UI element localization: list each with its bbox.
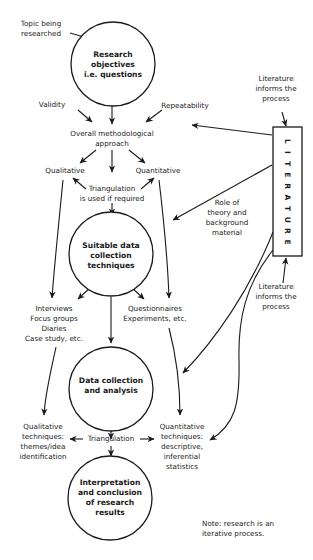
qual-techniques-line: themes/idea [21,442,66,451]
qual-methods-line: Focus groups [30,314,78,323]
validity-line: Validity [39,100,66,109]
lit-informs-bottom-line: process [262,302,290,311]
arrow-literature-to-analysis-area [183,232,273,373]
arrow-approach-to-qualitative [80,150,96,163]
objectives-line: i.e. questions [84,70,143,79]
lit-informs-top-line: Literature [258,74,294,83]
approach-label: Overall methodologicalapproach [70,129,153,148]
role-theory-label: Role oftheory andbackgroundmaterial [206,198,249,237]
note-line: iterative process. [202,529,264,538]
suitable-line: collection [90,251,131,260]
arrow-triangulation-to-quantitative [141,178,154,189]
quant-techniques-line: Quantitative [160,422,205,431]
topic-label: Topic beingresearched [20,19,61,38]
qual-methods-line: Interviews [35,304,72,313]
arrow-literature-to-quant-techniques [210,250,273,440]
literature-letter: R [283,228,292,234]
approach-line: Overall methodological [70,129,153,138]
analysis-line: and analysis [84,386,138,395]
triangulation-2-line: Triangulation [87,434,135,443]
lit-informs-bottom-line: informs the [255,292,297,301]
topic-line: Topic being [20,19,61,28]
research-methodology-diagram: LITERATURE Topic beingresearchedResearch… [0,0,313,560]
interpretation-line: Interpretation [80,478,141,487]
quantitative-label: Quantitative [136,166,181,175]
interpretation-line: of research [86,498,135,507]
validity-label: Validity [39,100,66,109]
lit-informs-bottom-line: Literature [258,282,294,291]
qual-techniques-line: Qualitative [23,422,63,431]
lit-informs-top-line: process [262,94,290,103]
qual-techniques-label: Qualitativetechniques:themes/ideaidentif… [19,422,66,461]
literature-letter: I [283,151,292,154]
qual-methods-line: Case study, etc. [25,334,83,343]
suitable-label: Suitable datacollectiontechniques [82,241,139,270]
arrow-qual-methods-to-qual-techniques [44,347,56,415]
arrow-qualitative-to-qual-methods [52,180,63,298]
lit-informs-top-line: informs the [255,84,297,93]
objectives-line: Research [93,50,132,59]
arrow-validity-to-approach [78,110,92,122]
qual-methods-label: InterviewsFocus groupsDiariesCase study,… [25,304,83,343]
triangulation-1-label: Triangulationis used if required [80,184,145,203]
interpretation-line: results [95,508,125,517]
arrow-lit-informs-top [282,112,286,126]
objectives-line: objectives [91,60,135,69]
role-theory-line: background [206,218,249,227]
note-line: Note: research is an [202,519,274,528]
literature-letter: A [283,194,292,200]
arrow-quantitative-to-quant-methods [159,180,169,298]
arrow-lit-informs-bottom [283,258,286,283]
quant-techniques-line: techniques: [161,432,203,441]
analysis-label: Data collectionand analysis [79,376,143,395]
suitable-line: Suitable data [82,241,139,250]
arrow-repeatability-to-approach [146,110,162,122]
arrow-triangulation-to-qualitative [73,178,86,189]
quant-methods-label: QuestionnairesExperiments, etc. [123,304,186,323]
literature-letter: E [283,240,292,245]
literature-letter: T [283,161,292,167]
qual-techniques-line: techniques: [22,432,64,441]
arrow-literature-to-approach [192,125,272,135]
interpretation-line: and conclusion [78,488,142,497]
qualitative-line: Qualitative [45,166,85,175]
arrow-quant-methods-to-quant-techniques [169,328,180,415]
role-theory-line: theory and [207,208,246,217]
role-theory-line: Role of [215,198,240,207]
quant-techniques-line: inferential [164,452,201,461]
triangulation-1-line: Triangulation [88,184,136,193]
quantitative-line: Quantitative [136,166,181,175]
literature-letter: E [283,172,292,177]
literature-letter: R [283,183,292,189]
literature-letter: T [283,206,292,212]
literature-letter: L [283,139,292,144]
triangulation-2-label: Triangulation [87,434,135,443]
text-layer: Topic beingresearchedResearchobjectivesi… [19,19,297,538]
quant-methods-line: Questionnaires [128,304,182,313]
lit-informs-top-label: Literatureinforms theprocess [255,74,297,103]
analysis-line: Data collection [79,376,143,385]
qual-techniques-line: identification [19,452,66,461]
topic-line: researched [21,29,61,38]
qual-methods-line: Diaries [41,324,66,333]
approach-line: approach [95,139,129,148]
quant-techniques-label: Quantitativetechniques:descriptive,infer… [160,422,205,471]
repeatability-label: Repeatability [161,101,209,110]
qualitative-label: Qualitative [45,166,85,175]
repeatability-line: Repeatability [161,101,209,110]
literature-letter: U [283,217,292,223]
lit-informs-bottom-label: Literatureinforms theprocess [255,282,297,311]
role-theory-line: material [212,228,242,237]
quant-methods-line: Experiments, etc. [123,314,186,323]
suitable-line: techniques [87,261,135,270]
quant-techniques-line: descriptive, [161,442,203,451]
arrow-approach-to-quantitative [129,150,145,163]
literature-box [273,127,302,256]
triangulation-1-line: is used if required [80,194,145,203]
quant-techniques-line: statistics [166,462,198,471]
note-label: Note: research is aniterative process. [202,519,274,538]
